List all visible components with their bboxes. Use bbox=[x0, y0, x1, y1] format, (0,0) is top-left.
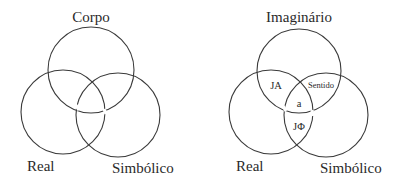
label-simbolico-left: Simbólico bbox=[112, 160, 174, 176]
right-diagram: Imaginário Real Simbólico JA Sentido a J… bbox=[229, 9, 382, 176]
crossing-gap bbox=[296, 86, 300, 90]
region-a: a bbox=[297, 98, 302, 109]
label-corpo: Corpo bbox=[72, 9, 110, 25]
crossing-gap bbox=[75, 104, 79, 110]
label-real-left: Real bbox=[27, 158, 55, 174]
region-ja: JA bbox=[270, 80, 282, 91]
crossing-gap bbox=[104, 109, 106, 114]
region-sentido: Sentido bbox=[308, 80, 334, 90]
label-real-right: Real bbox=[236, 158, 264, 174]
label-simbolico-right: Simbólico bbox=[320, 160, 382, 176]
label-imaginario: Imaginário bbox=[266, 9, 332, 25]
ring-simbolico-left bbox=[76, 73, 160, 157]
region-j-phi: JΦ bbox=[293, 121, 305, 132]
ring-real-left bbox=[21, 70, 105, 154]
crossing-gap bbox=[312, 110, 313, 116]
left-diagram: Corpo Real Simbólico bbox=[21, 9, 174, 176]
crossing-gap bbox=[88, 86, 92, 90]
borromean-diagrams: Corpo Real Simbólico Imaginário Real Sim… bbox=[0, 0, 399, 183]
